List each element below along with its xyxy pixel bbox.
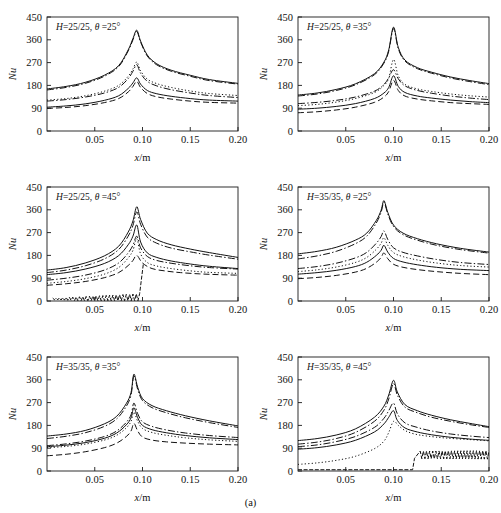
y-tick-label: 180 (26, 250, 42, 261)
plot-panel-6: 0901802703604500.050.100.150.20x/mNuH=35… (251, 340, 501, 508)
y-axis-title: Nu (7, 408, 18, 421)
x-tick-label: 0.05 (337, 304, 355, 315)
y-tick-label: 90 (32, 443, 43, 454)
curves-group (298, 201, 489, 279)
y-tick-label: 180 (277, 420, 293, 431)
plot-frame (298, 187, 489, 301)
y-axis-title: Nu (7, 68, 18, 81)
y-tick-label: 360 (277, 374, 293, 385)
y-tick-label: 450 (26, 352, 42, 363)
y-tick-label: 0 (288, 296, 293, 307)
x-tick-label: 0.15 (181, 134, 199, 145)
x-tick-label: 0.05 (86, 474, 104, 485)
curves-group (47, 30, 238, 108)
y-tick-label: 90 (283, 273, 294, 284)
x-axis-title: x/m (134, 152, 151, 163)
curve-series-2-dashdot-upper (47, 376, 238, 439)
curve-series-6-oscillating-dashed (298, 451, 489, 470)
curve-series-4-dashdot-mid (47, 65, 238, 101)
y-tick-label: 0 (37, 466, 42, 477)
curves-group (298, 380, 489, 469)
y-tick-label: 450 (277, 352, 293, 363)
y-tick-label: 270 (26, 227, 42, 238)
plot-panel-3: 0901802703604500.050.100.150.20x/mNuH=25… (0, 170, 250, 338)
y-axis-title: Nu (7, 238, 18, 251)
figure-caption: (a) (0, 497, 501, 508)
y-tick-label: 450 (26, 182, 42, 193)
x-tick-label: 0.15 (432, 134, 450, 145)
y-tick-label: 360 (26, 34, 42, 45)
curve-series-2-dashdot-upper (298, 29, 489, 96)
x-tick-label: 0.05 (337, 474, 355, 485)
y-axis-title: Nu (258, 68, 269, 81)
y-tick-label: 270 (26, 397, 42, 408)
x-tick-label: 0.20 (480, 304, 498, 315)
y-tick-label: 270 (277, 57, 293, 68)
curve-series-5-solid-lower (47, 78, 238, 107)
x-tick-label: 0.05 (86, 134, 104, 145)
curve-series-2-dashdot-upper (298, 202, 489, 259)
y-tick-label: 0 (37, 296, 42, 307)
y-tick-label: 360 (26, 374, 42, 385)
x-axis-title: x/m (385, 152, 402, 163)
y-tick-label: 90 (283, 103, 294, 114)
plot-panel-4: 0901802703604500.050.100.150.20x/mNuH=35… (251, 170, 501, 338)
curve-series-7-oscillating-dashed (53, 263, 144, 301)
x-tick-label: 0.05 (86, 304, 104, 315)
x-tick-label: 0.10 (384, 474, 402, 485)
y-tick-label: 270 (277, 397, 293, 408)
x-tick-label: 0.20 (229, 304, 247, 315)
x-tick-label: 0.20 (229, 134, 247, 145)
y-tick-label: 360 (26, 204, 42, 215)
x-tick-label: 0.10 (133, 304, 151, 315)
y-tick-label: 0 (288, 466, 293, 477)
y-tick-label: 0 (288, 126, 293, 137)
y-tick-label: 0 (37, 126, 42, 137)
curve-series-1-solid-upper (47, 374, 238, 436)
curve-series-2-dashdot-upper (298, 384, 489, 445)
x-tick-label: 0.20 (480, 474, 498, 485)
plot-frame (47, 17, 238, 131)
x-tick-label: 0.15 (432, 474, 450, 485)
y-axis-title: Nu (258, 408, 269, 421)
y-axis-title: Nu (258, 238, 269, 251)
panel-label: H=35/35, θ =35° (55, 362, 121, 372)
x-tick-label: 0.20 (480, 134, 498, 145)
curve-series-5-dotted-lower (298, 421, 489, 464)
y-tick-label: 450 (277, 182, 293, 193)
panel-label: H=25/25, θ =45° (55, 192, 121, 202)
y-tick-label: 180 (277, 80, 293, 91)
y-tick-label: 270 (277, 227, 293, 238)
x-tick-label: 0.05 (337, 134, 355, 145)
y-tick-label: 180 (26, 420, 42, 431)
panel-label: H=25/25, θ =25° (55, 22, 121, 32)
y-tick-label: 450 (26, 12, 42, 23)
plot-panel-5: 0901802703604500.050.100.150.20x/mNuH=35… (0, 340, 250, 508)
curve-series-1-solid-upper (298, 27, 489, 95)
curve-series-1-solid-upper (298, 201, 489, 254)
x-tick-label: 0.15 (181, 304, 199, 315)
panel-label: H=35/35, θ =25° (306, 192, 372, 202)
curve-series-4-dotted-mid (298, 238, 489, 272)
y-tick-label: 180 (277, 250, 293, 261)
y-tick-label: 360 (277, 204, 293, 215)
y-tick-label: 180 (26, 80, 42, 91)
curve-series-3-dotted-mid (298, 60, 489, 106)
figure-container: 0901802703604500.050.100.150.20x/mNuH=25… (0, 0, 501, 513)
plot-frame (47, 357, 238, 471)
curves-group (47, 207, 238, 301)
plot-frame (47, 187, 238, 301)
x-axis-title: x/m (385, 322, 402, 333)
y-tick-label: 90 (32, 273, 43, 284)
curves-group (47, 374, 238, 456)
curve-series-3-dashdot-mid (47, 403, 238, 446)
x-tick-label: 0.10 (384, 304, 402, 315)
panel-label: H=35/35, θ =45° (306, 362, 372, 372)
curve-series-4-dashdot-mid (298, 70, 489, 104)
curve-series-1-solid-upper (47, 207, 238, 270)
x-tick-label: 0.15 (432, 304, 450, 315)
curve-series-2-dashdot-upper (47, 31, 238, 90)
x-tick-label: 0.10 (133, 474, 151, 485)
y-tick-label: 360 (277, 34, 293, 45)
y-tick-label: 90 (283, 443, 294, 454)
